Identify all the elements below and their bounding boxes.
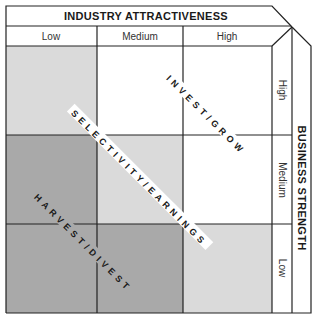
x-axis-level-low: Low	[42, 31, 61, 42]
y-axis-level-high: High	[277, 80, 288, 101]
x-axis-title: INDUSTRY ATTRACTIVENESS	[64, 10, 228, 22]
y-axis-title: BUSINESS STRENGTH	[296, 126, 308, 251]
ge-mckinsey-matrix: INDUSTRY ATTRACTIVENESS Low Medium High …	[0, 0, 317, 315]
cell-high-strength-high-attractiveness	[183, 46, 272, 135]
cell-medium-strength-high-attractiveness	[183, 135, 272, 224]
x-axis-level-medium: Medium	[122, 31, 158, 42]
y-axis-level-medium: Medium	[277, 162, 288, 198]
cell-high-strength-medium-attractiveness	[97, 46, 183, 135]
x-axis-level-high: High	[217, 31, 238, 42]
y-axis-level-low: Low	[277, 259, 288, 278]
